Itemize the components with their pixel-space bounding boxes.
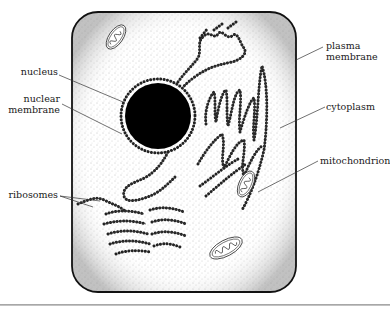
- label-plasma-membrane: plasma membrane: [326, 40, 378, 62]
- bottom-divider: [0, 304, 390, 306]
- label-cytoplasm: cytoplasm: [326, 101, 375, 112]
- label-ribosomes: ribosomes: [2, 189, 58, 200]
- label-mitochondrion: mitochondrion: [320, 155, 390, 166]
- leader-plasma-membrane: [296, 47, 323, 60]
- label-nuclear-membrane: nuclear membrane: [4, 93, 60, 115]
- nucleus-body: [125, 83, 191, 149]
- label-nucleus: nucleus: [6, 66, 58, 77]
